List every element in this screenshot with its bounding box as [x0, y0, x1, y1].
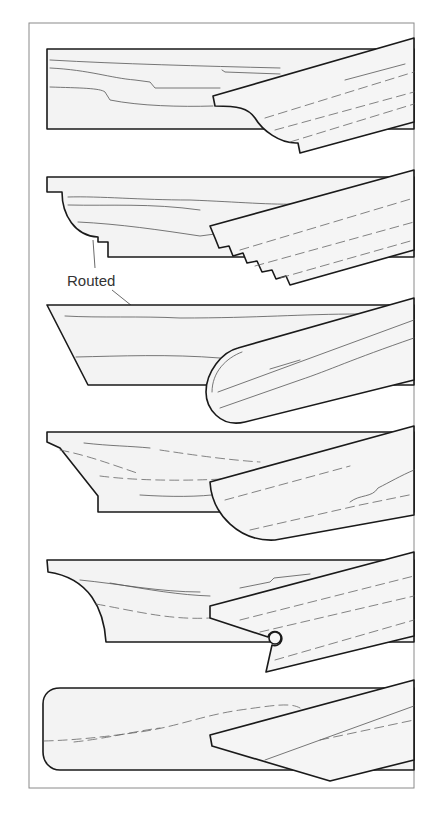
profile-1-ogee [47, 38, 414, 153]
profile-4-chamfer-quarter-round [47, 426, 414, 540]
edge-profiles-illustration: Routed [0, 0, 428, 814]
profile-2-routed-cove [47, 170, 414, 285]
profile-5-cove-bead [47, 552, 414, 672]
profile-3-bullnose [47, 298, 414, 423]
profile-6-rounded [43, 680, 414, 781]
bead [269, 632, 281, 644]
routed-label: Routed [67, 272, 115, 289]
